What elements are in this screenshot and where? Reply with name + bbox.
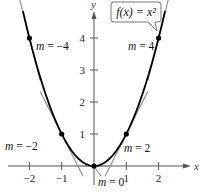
slope-label-m: m — [124, 142, 132, 154]
y-axis-label: y — [90, 0, 96, 10]
callout-rhs: = x² — [133, 5, 156, 19]
slope-label: m = −2 — [5, 140, 38, 152]
y-tick-label: 1 — [80, 128, 86, 140]
slope-label: m = 4 — [128, 40, 155, 52]
tangent-point — [59, 131, 64, 136]
slope-label-m: m — [5, 140, 13, 152]
x-tick-label: −2 — [24, 172, 36, 184]
tangent-point — [124, 131, 129, 136]
callout-text: f(x) = x² — [116, 5, 156, 19]
axes: xy−2−1121234 — [8, 0, 199, 185]
y-axis-arrow-icon — [92, 11, 97, 19]
m0-leader-line — [95, 168, 101, 176]
slope-label-value: = 4 — [136, 40, 154, 52]
slope-label-value: = 0 — [106, 176, 124, 188]
slope-label-m: m — [98, 176, 106, 188]
chart: xy−2−1121234 m = −4m = −2m = 0m = 2m = 4… — [0, 0, 200, 196]
x-tick-label: 1 — [124, 172, 130, 184]
slope-label-value: = 2 — [132, 142, 150, 154]
slope-label-m: m — [128, 40, 136, 52]
slope-label: m = −4 — [36, 40, 69, 52]
slope-label-value: = −2 — [13, 140, 38, 152]
slope-label: m = 2 — [124, 142, 151, 154]
function-callout: f(x) = x² — [111, 2, 161, 31]
y-tick-label: 3 — [80, 64, 86, 76]
callout-fx: f(x) — [116, 5, 133, 19]
slope-label-m: m — [36, 40, 44, 52]
tangent-point — [91, 163, 96, 168]
slope-label: m = 0 — [98, 176, 125, 188]
x-tick-label: −1 — [56, 172, 68, 184]
x-axis-arrow-icon — [183, 164, 191, 169]
y-tick-label: 4 — [80, 32, 86, 44]
x-tick-label: 2 — [156, 172, 162, 184]
y-tick-label: 2 — [80, 96, 86, 108]
x-axis-label: x — [193, 160, 199, 172]
tangent-point — [156, 35, 161, 40]
tangent-point — [27, 35, 32, 40]
slope-label-value: = −4 — [44, 40, 69, 52]
